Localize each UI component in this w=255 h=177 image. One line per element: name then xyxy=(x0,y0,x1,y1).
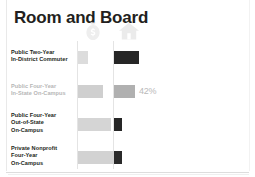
row-label: Private Nonprofit Four-Year On-Campus xyxy=(11,145,75,167)
row-label: Public Four-Year Out-of-State On-Campus xyxy=(11,112,75,134)
chart-row: Private Nonprofit Four-Year On-Campus xyxy=(0,141,255,174)
row-label-line: Public Four-Year xyxy=(11,83,75,90)
bar-value-label: 42% xyxy=(139,86,156,96)
row-label-line: On-Campus xyxy=(11,127,75,134)
bar-right-column xyxy=(114,118,122,131)
row-label-line: Out-of-State xyxy=(11,119,75,126)
chart-row: Public Four-Year Out-of-State On-Campus xyxy=(0,108,255,141)
bar-right-column xyxy=(114,151,122,164)
row-label: Public Four-Year In-State On-Campus xyxy=(11,83,75,98)
row-label-line: Private Nonprofit xyxy=(11,145,75,152)
bar-left-column xyxy=(78,118,111,131)
row-label-line: Four-Year xyxy=(11,152,75,159)
bar-right-column xyxy=(114,51,139,64)
row-label-line: On-Campus xyxy=(11,160,75,167)
bar-left-column xyxy=(78,151,114,164)
bar-right-column xyxy=(114,85,135,98)
house-icon xyxy=(118,21,140,41)
row-label-line: In-State On-Campus xyxy=(11,90,75,97)
chart-row: Public Two-Year In-District Commuter xyxy=(0,41,255,74)
bar-left-column xyxy=(78,85,103,98)
room-and-board-card: Room and Board Public Two-Year In-Distri… xyxy=(0,0,255,177)
row-label-line: In-District Commuter xyxy=(11,56,75,63)
bar-left-column xyxy=(78,51,88,64)
row-label-line: Public Four-Year xyxy=(11,112,75,119)
chart-row: Public Four-Year In-State On-Campus 42% xyxy=(0,74,255,108)
money-bag-icon xyxy=(82,21,104,41)
card-shadow-bottom xyxy=(8,174,249,175)
row-label-line: Public Two-Year xyxy=(11,49,75,56)
row-label: Public Two-Year In-District Commuter xyxy=(11,49,75,64)
